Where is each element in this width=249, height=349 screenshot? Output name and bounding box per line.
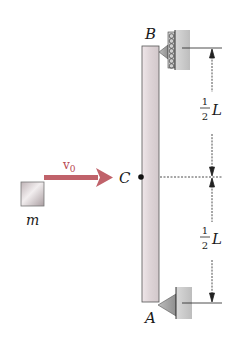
upper-dim-denominator: 2 [202,111,208,122]
lower-dim-denominator: 2 [202,240,208,251]
diagram-canvas: 1 2 L 1 2 L C B A m v0 [0,0,249,349]
top-pin-triangle [159,45,168,59]
upper-dim-variable: L [211,101,222,119]
velocity-subscript: 0 [70,164,76,174]
mass-block [21,182,44,206]
top-wall [175,30,190,70]
lower-dim-variable: L [211,230,222,248]
lower-dim-numerator: 1 [202,225,208,236]
velocity-label: v0 [62,158,76,174]
bar [142,46,159,302]
label-c: C [119,169,131,187]
upper-dim-numerator: 1 [202,96,208,107]
label-a: A [143,309,156,327]
velocity-arrow [44,168,113,187]
top-roller-support [159,30,190,70]
bottom-pin-triangle [158,294,176,316]
center-of-mass-dot [138,174,144,180]
label-b: B [144,25,156,43]
label-m: m [26,212,39,228]
